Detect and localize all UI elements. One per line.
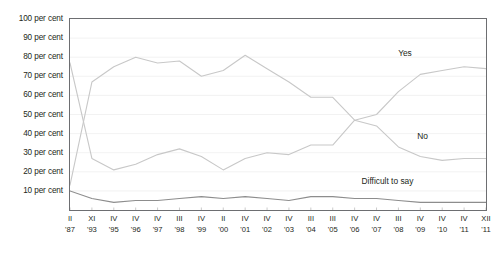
- x-axis-tick-label: IV'01: [240, 213, 250, 235]
- series-label: No: [417, 131, 428, 141]
- x-axis-tick-label: IV'99: [196, 213, 206, 235]
- series-line: [70, 191, 486, 202]
- x-axis-tick-label: IV'03: [284, 213, 294, 235]
- y-axis-tick-label: 60 per cent: [23, 90, 63, 99]
- x-axis-tick-year: '99: [196, 224, 206, 235]
- series-label: Yes: [398, 48, 412, 58]
- x-axis-tick-label: II'87: [65, 213, 75, 235]
- plot-svg: [70, 19, 486, 210]
- x-axis-tick-year: '02: [262, 224, 272, 235]
- x-axis-tick-month: IV: [109, 213, 119, 224]
- x-axis-tick-month: III: [175, 213, 185, 224]
- x-axis-tick-label: XI'93: [87, 213, 97, 235]
- series-line: [70, 63, 486, 170]
- y-axis-tick-label: 80 per cent: [23, 52, 63, 61]
- plot-area: [69, 18, 487, 211]
- x-axis-tick-month: IV: [196, 213, 206, 224]
- x-axis-tick-month: IV: [372, 213, 382, 224]
- x-axis-tick-year: '00: [218, 224, 228, 235]
- line-chart: 10 per cent20 per cent30 per cent40 per …: [0, 0, 497, 256]
- y-axis-tick-label: 50 per cent: [23, 109, 63, 118]
- x-axis-tick-year: '08: [393, 224, 403, 235]
- x-axis-tick-month: IV: [131, 213, 141, 224]
- x-axis-tick-year: '87: [65, 224, 75, 235]
- series-label: Difficult to say: [361, 176, 413, 186]
- x-axis-tick-month: IV: [240, 213, 250, 224]
- x-axis-tick-label: IV'06: [350, 213, 360, 235]
- x-axis-tick-label: IV'97: [153, 213, 163, 235]
- x-axis-tick-label: III'08: [393, 213, 403, 235]
- x-axis-tick-month: XI: [87, 213, 97, 224]
- x-axis-tick-label: IV'07: [372, 213, 382, 235]
- x-axis-tick-month: IV: [153, 213, 163, 224]
- y-axis-tick-label: 90 per cent: [23, 33, 63, 42]
- x-axis-tick-year: '06: [350, 224, 360, 235]
- x-axis-tick-month: IV: [437, 213, 447, 224]
- x-axis-tick-month: IV: [459, 213, 468, 224]
- x-axis-tick-label: IV'02: [262, 213, 272, 235]
- x-axis-tick-month: III: [306, 213, 316, 224]
- x-axis-tick-label: II'00: [218, 213, 228, 235]
- x-axis-tick-label: III'98: [175, 213, 185, 235]
- x-axis-tick-year: '95: [109, 224, 119, 235]
- x-axis-tick-year: '03: [284, 224, 294, 235]
- x-axis-tick-month: II: [218, 213, 228, 224]
- series-line: [70, 55, 486, 185]
- x-axis-tick-label: IV'10: [437, 213, 447, 235]
- x-axis-tick-year: '93: [87, 224, 97, 235]
- x-axis-tick-label: IV'95: [109, 213, 119, 235]
- x-axis-tick-year: '11: [481, 224, 490, 235]
- x-axis-tick-year: '01: [240, 224, 250, 235]
- y-axis-tick-label: 30 per cent: [23, 147, 63, 156]
- x-axis-tick-year: '05: [328, 224, 338, 235]
- x-axis-tick-label: III'04: [306, 213, 316, 235]
- x-axis-tick-year: '96: [131, 224, 141, 235]
- y-axis-labels: 10 per cent20 per cent30 per cent40 per …: [0, 0, 66, 256]
- x-axis-tick-month: III: [393, 213, 403, 224]
- x-axis-tick-year: '98: [175, 224, 185, 235]
- x-axis-tick-year: '97: [153, 224, 163, 235]
- x-axis-tick-month: IV: [350, 213, 360, 224]
- x-axis-tick-label: XII'11: [481, 213, 490, 235]
- x-axis-tick-month: IV: [415, 213, 425, 224]
- y-axis-tick-label: 20 per cent: [23, 166, 63, 175]
- y-axis-tick-label: 70 per cent: [23, 71, 63, 80]
- x-axis-tick-month: II: [65, 213, 75, 224]
- x-axis-tick-year: '10: [437, 224, 447, 235]
- x-axis-tick-month: III: [328, 213, 338, 224]
- y-axis-tick-label: 100 per cent: [19, 14, 63, 23]
- x-axis-tick-label: III'05: [328, 213, 338, 235]
- x-axis-tick-month: XII: [481, 213, 490, 224]
- x-axis-tick-year: '07: [372, 224, 382, 235]
- x-axis-tick-month: IV: [284, 213, 294, 224]
- x-axis-tick-year: '04: [306, 224, 316, 235]
- x-axis-tick-label: IV'96: [131, 213, 141, 235]
- x-axis-tick-label: IV'11: [459, 213, 468, 235]
- y-axis-tick-label: 40 per cent: [23, 128, 63, 137]
- x-axis-tick-year: '09: [415, 224, 425, 235]
- x-axis-tick-label: IV'09: [415, 213, 425, 235]
- x-axis-tick-year: '11: [459, 224, 468, 235]
- x-axis-tick-month: IV: [262, 213, 272, 224]
- x-axis-labels: II'87XI'93IV'95IV'96IV'97III'98IV'99II'0…: [69, 213, 487, 256]
- y-axis-tick-label: 10 per cent: [23, 185, 63, 194]
